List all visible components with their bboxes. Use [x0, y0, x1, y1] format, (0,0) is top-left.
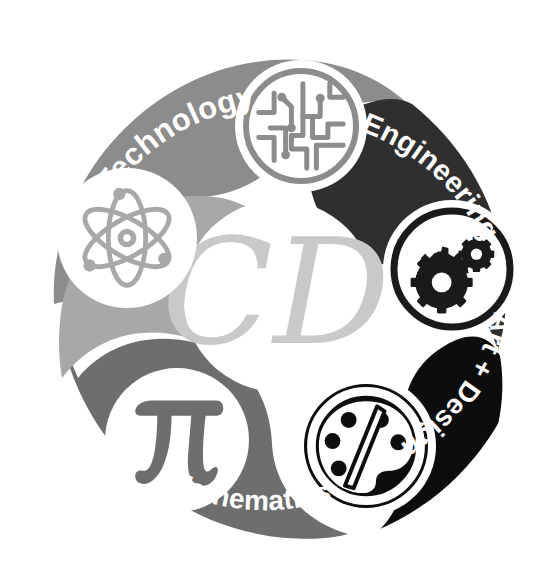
- steam-wheel-figure: CD: [0, 0, 558, 584]
- steam-wheel-svg: CD: [0, 0, 558, 584]
- segment-label-science: Science: [0, 0, 64, 345]
- icon-disc-science[interactable]: [57, 168, 197, 308]
- icon-disc-technology[interactable]: [235, 60, 367, 192]
